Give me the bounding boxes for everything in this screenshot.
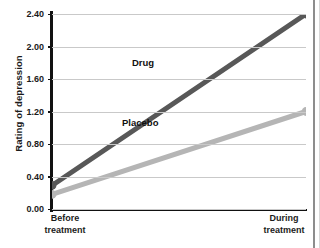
gridline	[52, 112, 306, 113]
series-label-placebo: Placebo	[122, 117, 158, 128]
gridline	[52, 14, 306, 15]
y-tick-label: 2.40	[0, 9, 44, 19]
y-tick-mark	[48, 144, 52, 146]
x-axis-label-before-line1: Before	[17, 213, 113, 225]
y-tick-mark	[48, 111, 52, 113]
gridline	[52, 144, 306, 145]
gridline	[52, 177, 306, 178]
x-axis-label-during: During treatment	[236, 213, 320, 236]
y-tick-mark	[48, 14, 52, 16]
y-tick-label: 0.40	[0, 172, 44, 182]
series-line-placebo	[52, 112, 306, 195]
gridline	[52, 79, 306, 80]
series-label-drug: Drug	[132, 57, 154, 68]
page-divider-rule	[313, 0, 315, 248]
y-tick-label: 1.20	[0, 107, 44, 117]
y-tick-mark	[48, 209, 52, 211]
plot-area: 0.000.400.801.201.602.002.40	[52, 14, 306, 209]
gridline	[52, 47, 306, 48]
y-tick-label: 2.00	[0, 42, 44, 52]
series-line-drug	[52, 14, 306, 185]
y-tick-mark	[48, 79, 52, 81]
y-tick-mark	[48, 176, 52, 178]
depression-rating-line-chart: Rating of depression 0.000.400.801.201.6…	[0, 0, 320, 248]
gridline	[52, 209, 306, 210]
x-axis-label-before-line2: treatment	[17, 225, 113, 237]
y-tick-label: 1.60	[0, 74, 44, 84]
y-tick-mark	[48, 46, 52, 48]
y-tick-label: 0.80	[0, 139, 44, 149]
x-axis-label-before: Before treatment	[17, 213, 113, 236]
x-axis-label-during-line2: treatment	[236, 225, 320, 237]
x-axis-label-during-line1: During	[236, 213, 320, 225]
